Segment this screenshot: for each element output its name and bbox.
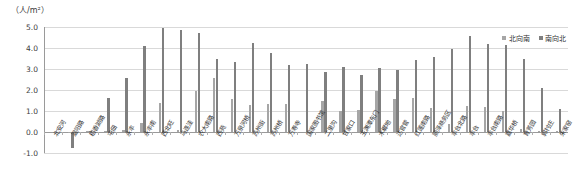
bar	[288, 65, 290, 132]
legend-label: 北向南	[509, 33, 530, 43]
bar	[198, 33, 200, 132]
bar	[360, 75, 362, 132]
bar	[216, 59, 218, 133]
bar	[180, 30, 182, 132]
legend-label: 南向北	[545, 33, 566, 43]
chart-legend: 北向南南向北	[502, 33, 566, 43]
bar	[234, 62, 236, 132]
bar	[324, 72, 326, 132]
bar	[270, 53, 272, 132]
legend-swatch-icon	[539, 36, 543, 40]
y-tick-label: 4.0	[4, 44, 38, 53]
plot-area: 5.04.03.02.01.00.0-1.0	[44, 27, 568, 132]
legend-item: 北向南	[502, 33, 530, 43]
bar	[143, 46, 145, 132]
bar	[342, 67, 344, 132]
y-axis-unit-caption: （人/m²）	[11, 4, 49, 15]
bar	[252, 43, 254, 132]
bar	[433, 57, 435, 132]
bar	[125, 78, 127, 132]
legend-swatch-icon	[502, 36, 506, 40]
bar	[505, 45, 507, 132]
chart-container: （人/m²） 5.04.03.02.01.00.0-1.0 北安河温阳路稻香湖路…	[0, 0, 580, 189]
bar	[469, 36, 471, 132]
bar	[451, 49, 453, 132]
legend-item: 南向北	[539, 33, 567, 43]
y-tick-label: -1.0	[4, 149, 38, 158]
x-axis-category-labels: 北安河温阳路稻香湖路屯佃永丰永丰南西北旺马连洼农大南路西苑万泉河桥苏州街苏州桥万…	[44, 134, 568, 189]
y-tick-label: 3.0	[4, 65, 38, 74]
bar	[415, 60, 417, 132]
bar	[541, 88, 543, 132]
bar	[523, 59, 525, 133]
bar	[162, 28, 164, 132]
bar	[487, 44, 489, 132]
y-tick-label: 2.0	[4, 86, 38, 95]
y-tick-label: 5.0	[4, 23, 38, 32]
bar	[378, 68, 380, 132]
y-tick-label: 1.0	[4, 107, 38, 116]
bar	[306, 64, 308, 132]
bar	[396, 70, 398, 132]
y-tick-label: 0.0	[4, 128, 38, 137]
